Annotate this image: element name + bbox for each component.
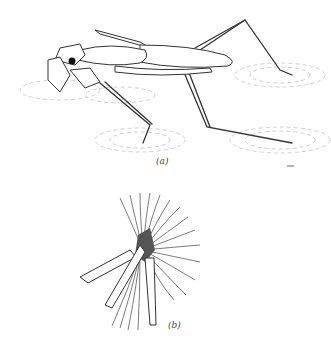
panel-label-b: (b) <box>168 320 181 330</box>
leg-detail-illustration-b <box>0 0 331 346</box>
